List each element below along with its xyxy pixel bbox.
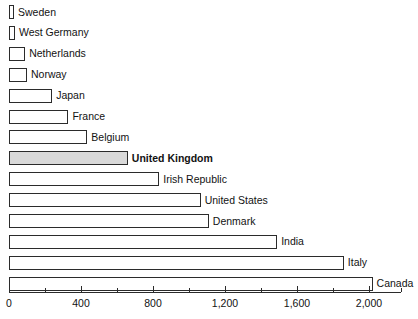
x-axis-tick bbox=[9, 286, 10, 292]
bar-sweden bbox=[9, 5, 14, 19]
bar-belgium bbox=[9, 130, 87, 144]
bar-label-united-kingdom: United Kingdom bbox=[132, 153, 213, 164]
x-axis-minor-tick bbox=[117, 288, 118, 292]
x-axis-minor-tick bbox=[333, 288, 334, 292]
x-axis-tick-label: 1,600 bbox=[284, 297, 310, 309]
bar-italy bbox=[9, 256, 344, 270]
bar-row: Irish Republic bbox=[9, 171, 227, 187]
bar-west-germany bbox=[9, 26, 15, 40]
x-axis-tick-label: 1,200 bbox=[212, 297, 238, 309]
bar-row: Denmark bbox=[9, 213, 255, 229]
x-axis-tick-label: 0 bbox=[6, 297, 12, 309]
bar-label-sweden: Sweden bbox=[18, 7, 56, 18]
bar-japan bbox=[9, 89, 52, 103]
x-axis-tick-label: 400 bbox=[72, 297, 90, 309]
bar-label-denmark: Denmark bbox=[213, 216, 256, 227]
bar-row: Italy bbox=[9, 255, 367, 271]
x-axis-tick-label: 2,000 bbox=[356, 297, 382, 309]
x-axis-minor-tick bbox=[189, 288, 190, 292]
bar-label-japan: Japan bbox=[56, 90, 85, 101]
bar-label-italy: Italy bbox=[348, 257, 367, 268]
bar-denmark bbox=[9, 214, 209, 228]
x-axis-tick bbox=[225, 286, 226, 292]
bar-label-united-states: United States bbox=[205, 195, 268, 206]
bar-label-india: India bbox=[281, 236, 304, 247]
bar-united-states bbox=[9, 193, 201, 207]
bar-irish-republic bbox=[9, 172, 159, 186]
x-axis-line bbox=[9, 292, 401, 293]
bar-row: Norway bbox=[9, 67, 67, 83]
bar-label-france: France bbox=[72, 111, 105, 122]
bar-label-netherlands: Netherlands bbox=[29, 48, 86, 59]
x-axis-tick bbox=[297, 286, 298, 292]
x-axis-tick-label: 800 bbox=[144, 297, 162, 309]
bar-norway bbox=[9, 68, 27, 82]
bar-row: Canada bbox=[9, 276, 413, 292]
bar-row: Sweden bbox=[9, 4, 56, 20]
bar-row: West Germany bbox=[9, 25, 89, 41]
x-axis-tick bbox=[153, 286, 154, 292]
bar-chart: SwedenWest GermanyNetherlandsNorwayJapan… bbox=[0, 0, 418, 319]
x-axis-tick bbox=[81, 286, 82, 292]
x-axis-minor-tick bbox=[45, 288, 46, 292]
bar-row: France bbox=[9, 109, 105, 125]
bar-row: India bbox=[9, 234, 304, 250]
bar-row: Belgium bbox=[9, 129, 129, 145]
bar-label-west-germany: West Germany bbox=[19, 27, 89, 38]
bar-label-canada: Canada bbox=[377, 278, 414, 289]
bar-india bbox=[9, 235, 277, 249]
bar-row: Netherlands bbox=[9, 46, 86, 62]
bar-label-irish-republic: Irish Republic bbox=[163, 174, 227, 185]
bar-label-belgium: Belgium bbox=[91, 132, 129, 143]
bar-row: United Kingdom bbox=[9, 150, 213, 166]
bar-france bbox=[9, 110, 68, 124]
bar-row: Japan bbox=[9, 88, 85, 104]
x-axis-minor-tick bbox=[401, 288, 402, 292]
bar-united-kingdom bbox=[9, 151, 128, 165]
x-axis-tick bbox=[369, 286, 370, 292]
bar-canada bbox=[9, 277, 373, 291]
bar-label-norway: Norway bbox=[31, 69, 67, 80]
bar-netherlands bbox=[9, 47, 25, 61]
x-axis-minor-tick bbox=[261, 288, 262, 292]
bar-row: United States bbox=[9, 192, 268, 208]
